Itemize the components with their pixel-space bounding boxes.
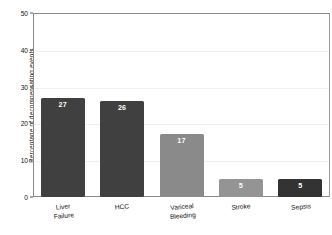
bar-slot: 5 — [219, 13, 263, 197]
bar-slot: 17 — [160, 13, 204, 197]
x-axis-label: Stroke — [211, 200, 271, 214]
x-axis-label: Variceal Bleeding — [152, 200, 213, 222]
bar[interactable]: 5 — [219, 179, 263, 197]
bar-value-label: 5 — [219, 181, 263, 190]
x-axis-label: Sepsis — [271, 200, 331, 214]
y-tick-label: 50 — [21, 10, 28, 17]
bar-value-label: 26 — [100, 103, 144, 112]
y-tick-label: 10 — [21, 157, 28, 164]
bar-chart: Percentage of decompensating events 0102… — [0, 0, 332, 235]
bar-value-label: 27 — [41, 100, 85, 109]
y-tick-label: 20 — [21, 120, 28, 127]
x-axis-label: HCC — [93, 200, 153, 214]
x-axis-labels: Liver FailureHCCVariceal BleedingStrokeS… — [33, 199, 330, 235]
bar[interactable]: 26 — [100, 101, 144, 197]
bar-value-label: 17 — [160, 136, 204, 145]
bar[interactable]: 17 — [160, 134, 204, 197]
bar[interactable]: 27 — [41, 98, 85, 197]
bar-slot: 5 — [278, 13, 322, 197]
y-axis-ticks: 01020304050 — [0, 13, 33, 197]
x-axis-label: Liver Failure — [33, 200, 94, 222]
bar[interactable]: 5 — [278, 179, 322, 197]
y-tick-label: 30 — [21, 83, 28, 90]
bar-slot: 27 — [41, 13, 85, 197]
bar-slot: 26 — [100, 13, 144, 197]
y-tick-label: 40 — [21, 46, 28, 53]
y-tick-label: 0 — [24, 194, 28, 201]
bars-layer: 27261755 — [33, 13, 330, 197]
bar-value-label: 5 — [278, 181, 322, 190]
